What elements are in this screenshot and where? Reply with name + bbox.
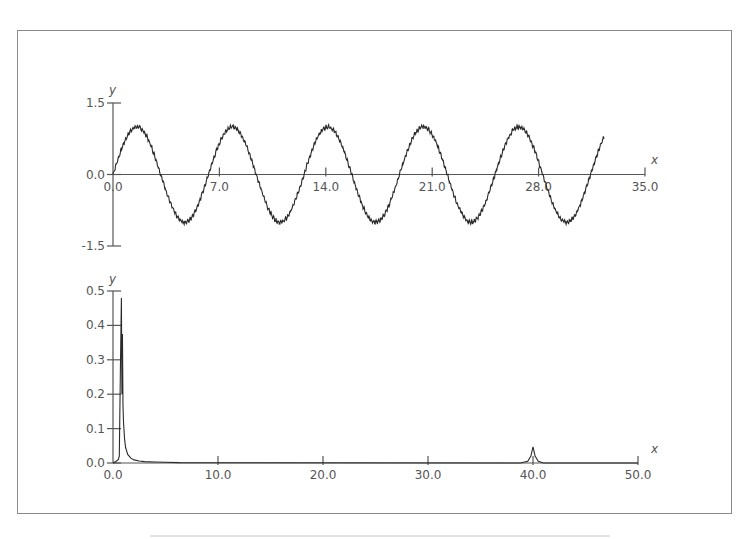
y-tick-label: 0.1 [86, 422, 105, 436]
x-tick-label: 10.0 [205, 468, 232, 482]
y-tick-label: 0.2 [86, 387, 105, 401]
lower-axes: 0.010.020.030.040.050.00.00.10.20.30.40.… [86, 284, 651, 482]
y-tick-label: 0.0 [86, 456, 105, 470]
x-tick-label: 20.0 [310, 468, 337, 482]
x-tick-label: 14.0 [312, 180, 339, 194]
y-tick-label: 0.4 [86, 318, 105, 332]
y-tick-label: -1.5 [82, 239, 105, 253]
plot-canvas: 0.07.014.021.028.035.01.50.0-1.5 y x 0.0… [0, 0, 753, 539]
upper-x-axis-label: x [650, 153, 659, 167]
x-tick-label: 30.0 [415, 468, 442, 482]
x-tick-label: 35.0 [632, 180, 659, 194]
y-tick-label: 0.3 [86, 353, 105, 367]
x-tick-label: 50.0 [625, 468, 652, 482]
x-tick-label: 7.0 [210, 180, 229, 194]
lower-chart: 0.010.020.030.040.050.00.00.10.20.30.40.… [86, 272, 659, 482]
upper-y-axis-label: y [108, 83, 117, 97]
y-tick-label: 0.5 [86, 284, 105, 298]
x-tick-label: 0.0 [103, 468, 122, 482]
lower-y-axis-label: y [108, 272, 117, 286]
lower-spectrum-line [113, 298, 638, 463]
upper-axes: 0.07.014.021.028.035.01.50.0-1.5 [82, 96, 659, 253]
x-tick-label: 28.0 [525, 180, 552, 194]
x-tick-label: 0.0 [103, 180, 122, 194]
figure-caption-cropped [150, 532, 610, 539]
lower-x-axis-label: x [650, 442, 659, 456]
y-tick-label: 1.5 [86, 96, 105, 110]
upper-chart: 0.07.014.021.028.035.01.50.0-1.5 y x [82, 83, 659, 253]
x-tick-label: 40.0 [520, 468, 547, 482]
y-tick-label: 0.0 [86, 168, 105, 182]
x-tick-label: 21.0 [419, 180, 446, 194]
